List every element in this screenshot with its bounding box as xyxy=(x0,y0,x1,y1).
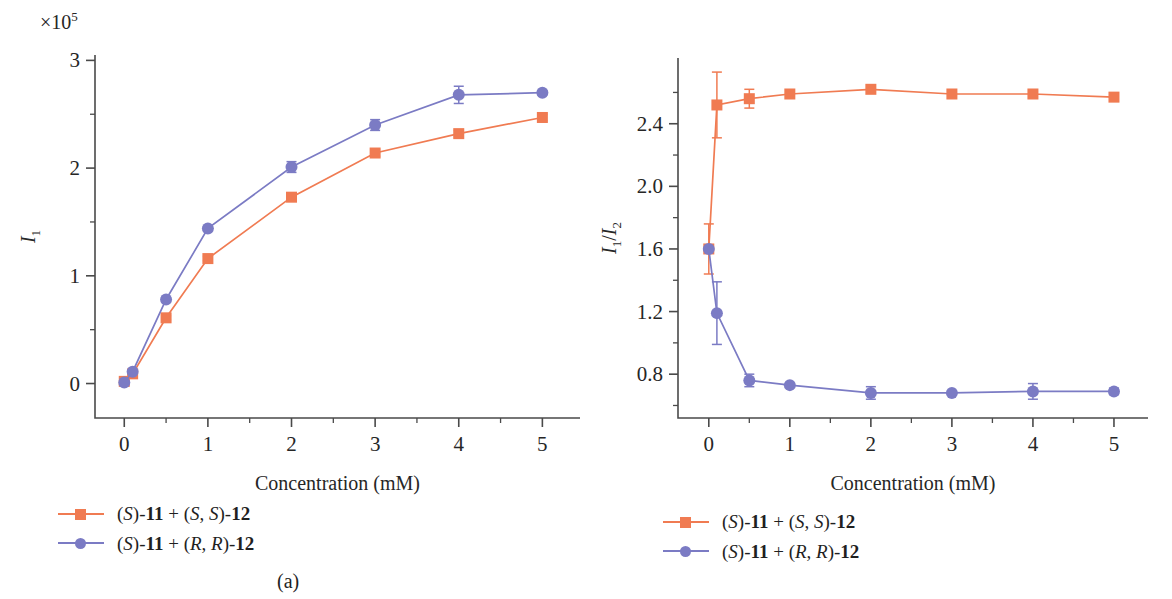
legend-label-series2: (S)-11 + (R, R)-12 xyxy=(117,530,254,558)
data-point-marker xyxy=(369,119,381,131)
series-1 xyxy=(119,112,548,387)
y-axis-title: I1/I2 xyxy=(598,222,624,255)
y-tick-label: 1.2 xyxy=(637,300,663,324)
data-point-marker xyxy=(202,253,213,264)
legend-label-series1: (S)-11 + (S, S)-12 xyxy=(722,508,855,536)
y-tick-label: 2.0 xyxy=(637,174,663,198)
svg-text:I1/I2: I1/I2 xyxy=(598,222,624,255)
data-point-marker xyxy=(127,366,139,378)
svg-text:I1: I1 xyxy=(17,230,43,244)
x-tick-label: 1 xyxy=(785,432,796,456)
x-tick-label: 5 xyxy=(1109,432,1120,456)
legend-key-square-orange xyxy=(58,506,104,522)
data-point-marker xyxy=(286,192,297,203)
x-tick-label: 2 xyxy=(286,432,297,456)
figure-container: 0123012345×105Concentration (mM)I1 (S)-1… xyxy=(0,0,1172,599)
data-point-marker xyxy=(1108,92,1119,103)
legend-item-series2: (S)-11 + (R, R)-12 xyxy=(58,530,254,558)
legend-panel-b: (S)-11 + (S, S)-12 (S)-11 + (R, R)-12 xyxy=(663,508,859,567)
legend-item-series2: (S)-11 + (R, R)-12 xyxy=(663,538,859,566)
data-point-marker xyxy=(537,112,548,123)
y-axis-title: I1 xyxy=(17,230,43,244)
x-tick-label: 2 xyxy=(866,432,877,456)
y-tick-label: 1 xyxy=(70,264,81,288)
legend-key-circle-purple xyxy=(58,535,104,551)
legend-panel-a: (S)-11 + (S, S)-12 (S)-11 + (R, R)-12 xyxy=(58,500,254,559)
legend-item-series1: (S)-11 + (S, S)-12 xyxy=(663,508,859,536)
data-point-marker xyxy=(118,376,130,388)
legend-item-series1: (S)-11 + (S, S)-12 xyxy=(58,500,254,528)
plot-a-svg: 0123012345×105Concentration (mM)I1 xyxy=(0,0,600,500)
data-point-marker xyxy=(160,294,172,306)
y-tick-label: 0 xyxy=(70,372,81,396)
y-tick-label: 2 xyxy=(70,156,81,180)
data-point-marker xyxy=(370,148,381,159)
data-point-marker xyxy=(743,374,755,386)
legend-label-series1: (S)-11 + (S, S)-12 xyxy=(117,500,250,528)
data-point-marker xyxy=(784,89,795,100)
data-point-marker xyxy=(784,379,796,391)
data-point-marker xyxy=(865,387,877,399)
data-point-marker xyxy=(946,89,957,100)
y-tick-label: 2.4 xyxy=(637,112,664,136)
chart-panel-b: 0.81.21.62.02.4012345Concentration (mM)I… xyxy=(600,0,1172,599)
x-tick-label: 0 xyxy=(704,432,715,456)
x-tick-label: 5 xyxy=(537,432,548,456)
y-axis-exponent-label: ×105 xyxy=(40,9,78,33)
series-2 xyxy=(703,243,1120,399)
data-point-marker xyxy=(711,307,723,319)
y-tick-label: 3 xyxy=(70,48,81,72)
data-point-marker xyxy=(703,243,715,255)
subcaption-a: (a) xyxy=(277,570,299,593)
data-point-marker xyxy=(536,87,548,99)
x-axis-title: Concentration (mM) xyxy=(255,472,420,495)
x-axis-title: Concentration (mM) xyxy=(831,472,996,495)
data-point-marker xyxy=(453,128,464,139)
plot-b-svg: 0.81.21.62.02.4012345Concentration (mM)I… xyxy=(600,0,1172,500)
data-point-marker xyxy=(161,312,172,323)
data-point-marker xyxy=(865,84,876,95)
chart-panel-a: 0123012345×105Concentration (mM)I1 (S)-1… xyxy=(0,0,600,599)
series-2 xyxy=(118,86,548,388)
legend-label-series2: (S)-11 + (R, R)-12 xyxy=(722,538,859,566)
y-tick-label: 0.8 xyxy=(637,362,663,386)
series-1 xyxy=(703,72,1119,274)
data-point-marker xyxy=(453,89,465,101)
x-tick-label: 1 xyxy=(203,432,214,456)
data-point-marker xyxy=(1027,89,1038,100)
data-point-marker xyxy=(744,93,755,104)
data-point-marker xyxy=(1108,385,1120,397)
data-point-marker xyxy=(1027,385,1039,397)
x-tick-label: 4 xyxy=(1028,432,1039,456)
legend-key-square-orange xyxy=(663,514,709,530)
data-point-marker xyxy=(286,161,298,173)
x-tick-label: 3 xyxy=(947,432,958,456)
data-point-marker xyxy=(202,222,214,234)
legend-key-circle-purple xyxy=(663,543,709,559)
data-point-marker xyxy=(946,387,958,399)
x-tick-label: 0 xyxy=(119,432,130,456)
x-tick-label: 3 xyxy=(370,432,381,456)
x-tick-label: 4 xyxy=(454,432,465,456)
y-tick-label: 1.6 xyxy=(637,237,663,261)
data-point-marker xyxy=(711,99,722,110)
